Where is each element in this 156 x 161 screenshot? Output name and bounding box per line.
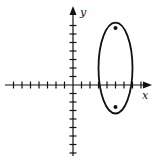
ellipse-curve [99, 23, 133, 114]
y-axis-arrow-icon [70, 6, 77, 15]
ellipse-coordinate-diagram: x y [0, 0, 156, 161]
y-axis-label: y [79, 6, 87, 19]
diagram-canvas: x y [0, 0, 156, 161]
lower-focus-point [114, 105, 118, 109]
x-axis-label: x [142, 89, 149, 102]
upper-focus-point [114, 26, 118, 30]
x-axis-arrow-icon [143, 82, 152, 89]
